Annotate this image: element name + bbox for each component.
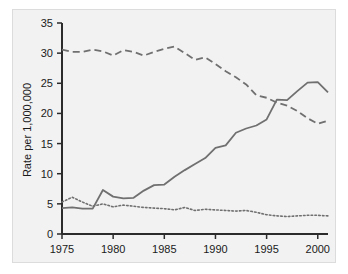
series-line-solid-series	[62, 82, 328, 209]
y-axis-tick-label: 15	[41, 138, 53, 150]
y-axis-title: Rate per 1,000,000	[21, 83, 33, 177]
y-axis-tick-label: 0	[47, 228, 53, 240]
y-axis-tick-label: 5	[47, 198, 53, 210]
y-axis-tick-label: 10	[41, 168, 53, 180]
x-axis-tick-label: 1980	[101, 243, 125, 255]
y-axis-tick-label: 30	[41, 47, 53, 59]
y-axis-tick-label: 25	[41, 77, 53, 89]
series-line-dashed-series	[62, 47, 328, 124]
x-axis-tick-label: 1975	[50, 243, 74, 255]
chart-figure: Rate per 1,000,000 05101520253035 197519…	[0, 0, 348, 274]
x-axis-tick-label: 1985	[152, 243, 176, 255]
y-axis-tick-label: 20	[41, 107, 53, 119]
y-axis-ticks: 05101520253035	[41, 17, 62, 240]
data-series-group	[62, 47, 328, 217]
line-chart: Rate per 1,000,000 05101520253035 197519…	[0, 0, 348, 274]
x-axis-tick-label: 2000	[306, 243, 330, 255]
series-line-dotted-series	[62, 197, 328, 216]
x-axis-tick-label: 1995	[254, 243, 278, 255]
x-axis-tick-label: 1990	[203, 243, 227, 255]
x-axis-ticks: 197519801985199019952000	[50, 234, 330, 255]
y-axis-title-label: Rate per 1,000,000	[21, 83, 33, 177]
y-axis-tick-label: 35	[41, 17, 53, 29]
